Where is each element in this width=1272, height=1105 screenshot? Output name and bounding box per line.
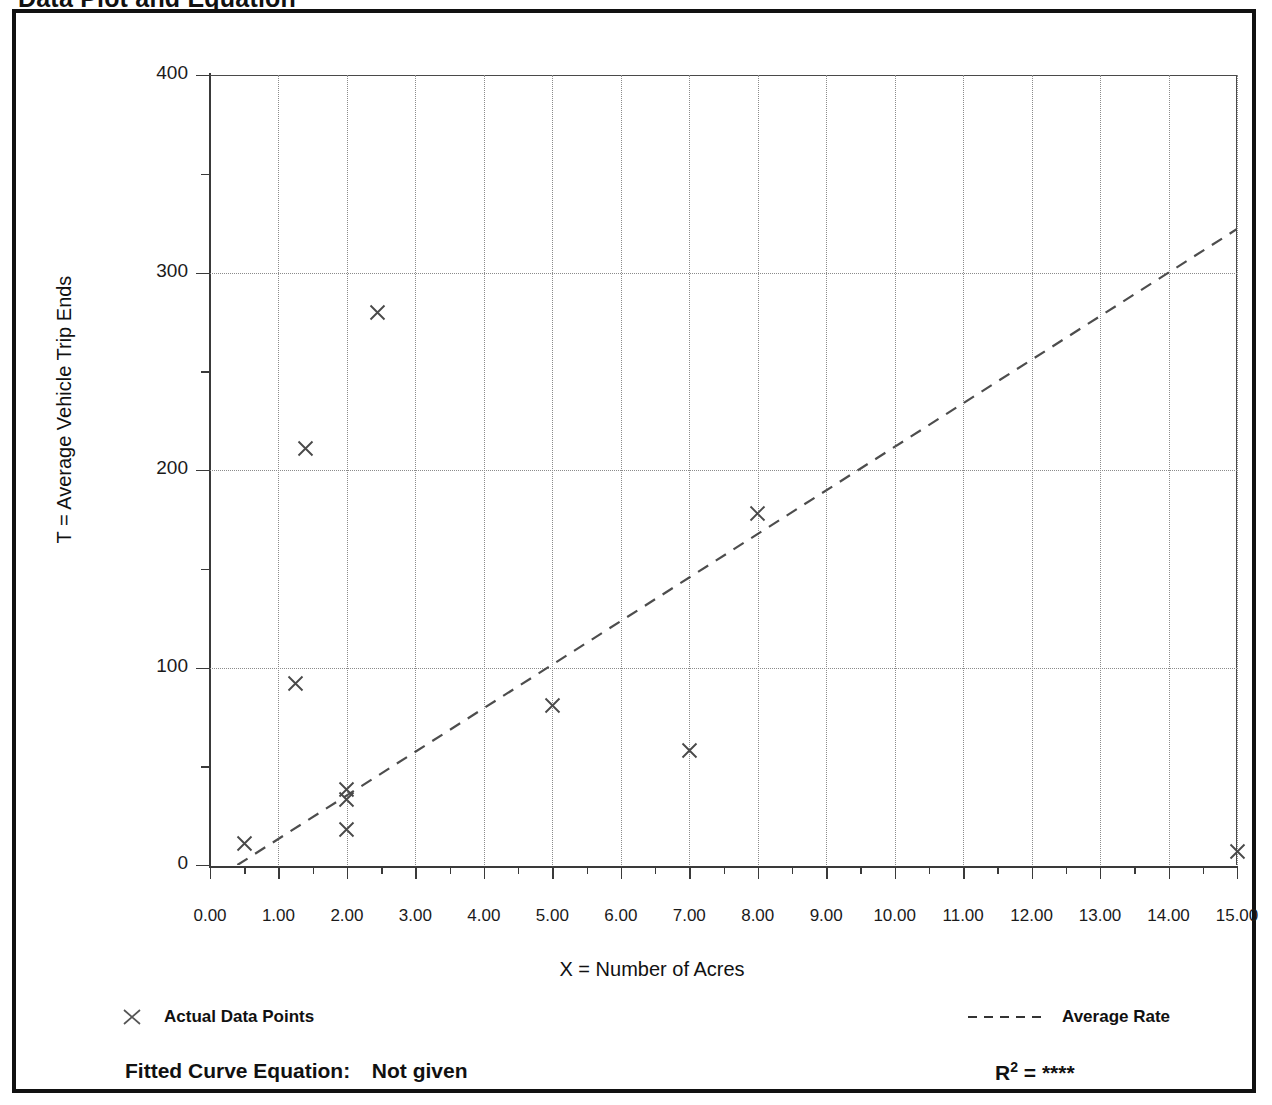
x-tick-major	[278, 866, 279, 879]
data-point-marker	[543, 696, 562, 715]
x-tick-label: 0.00	[175, 906, 245, 926]
y-tick-label: 0	[128, 852, 188, 874]
x-axis-title: X = Number of Acres	[402, 958, 902, 981]
x-tick-minor	[450, 866, 451, 874]
x-tick-minor	[655, 866, 656, 874]
data-point-marker	[368, 303, 387, 322]
r2-exponent: 2	[1010, 1059, 1018, 1075]
r-squared-value: R2 = ****	[995, 1059, 1075, 1085]
y-tick-minor	[201, 766, 210, 767]
x-tick-minor	[587, 866, 588, 874]
y-tick-major	[196, 865, 210, 866]
x-tick-minor	[860, 866, 861, 874]
data-point-marker	[680, 741, 699, 760]
y-tick-minor	[201, 569, 210, 570]
y-tick-major	[196, 470, 210, 471]
data-point-marker	[235, 834, 254, 853]
y-tick-label: 100	[128, 655, 188, 677]
x-tick-major	[689, 866, 690, 879]
legend-rate-label: Average Rate	[1062, 1007, 1170, 1027]
average-rate-svg	[210, 75, 1237, 865]
y-tick-label: 400	[128, 62, 188, 84]
data-point-marker	[748, 504, 767, 523]
r2-prefix: R	[995, 1061, 1010, 1084]
x-tick-major	[895, 866, 896, 879]
y-tick-major	[196, 273, 210, 274]
y-tick-minor	[201, 371, 210, 372]
x-tick-major	[1032, 866, 1033, 879]
x-tick-minor	[313, 866, 314, 874]
legend-actual-data-points: Actual Data Points	[120, 1006, 314, 1027]
x-tick-minor	[929, 866, 930, 874]
x-tick-label: 14.00	[1134, 906, 1204, 926]
x-tick-major	[963, 866, 964, 879]
legend-points-label: Actual Data Points	[164, 1007, 314, 1027]
vertical-gridline	[1237, 75, 1238, 865]
data-point-marker	[1228, 842, 1247, 861]
x-tick-minor	[381, 866, 382, 874]
x-tick-major	[621, 866, 622, 879]
x-tick-minor	[518, 866, 519, 874]
plot-area	[210, 75, 1237, 865]
x-tick-label: 4.00	[449, 906, 519, 926]
x-tick-label: 12.00	[997, 906, 1067, 926]
equation-value: Not given	[372, 1059, 468, 1082]
x-tick-major	[552, 866, 553, 879]
x-tick-minor	[1134, 866, 1135, 874]
chart-frame: 0.001.002.003.004.005.006.007.008.009.00…	[12, 9, 1256, 1093]
data-point-marker	[286, 674, 305, 693]
legend-average-rate: Average Rate	[966, 1006, 1170, 1027]
x-tick-major	[758, 866, 759, 879]
x-tick-label: 7.00	[654, 906, 724, 926]
x-tick-major	[484, 866, 485, 879]
x-tick-label: 6.00	[586, 906, 656, 926]
data-point-marker	[337, 820, 356, 839]
x-tick-label: 2.00	[312, 906, 382, 926]
x-tick-label: 8.00	[723, 906, 793, 926]
x-tick-label: 13.00	[1065, 906, 1135, 926]
fitted-curve-equation: Fitted Curve Equation: Not given	[125, 1059, 468, 1083]
x-tick-major	[1100, 866, 1101, 879]
x-tick-minor	[1203, 866, 1204, 874]
x-tick-label: 3.00	[380, 906, 450, 926]
y-tick-major	[196, 75, 210, 76]
r2-stars: ****	[1042, 1061, 1075, 1084]
x-tick-label: 5.00	[517, 906, 587, 926]
y-tick-major	[196, 668, 210, 669]
equation-label: Fitted Curve Equation:	[125, 1059, 350, 1082]
x-tick-label: 10.00	[860, 906, 930, 926]
x-tick-minor	[1066, 866, 1067, 874]
y-tick-label: 200	[128, 457, 188, 479]
x-tick-label: 11.00	[928, 906, 998, 926]
x-tick-label: 1.00	[243, 906, 313, 926]
dashed-line-icon	[966, 1009, 1044, 1025]
chart-page: Data Plot and Equation 0.001.002.003.004…	[0, 0, 1272, 1105]
x-tick-major	[1237, 866, 1238, 879]
x-tick-minor	[724, 866, 725, 874]
x-marker-icon	[120, 1007, 144, 1027]
x-tick-major	[210, 866, 211, 879]
x-tick-label: 15.00	[1202, 906, 1272, 926]
x-tick-label: 9.00	[791, 906, 861, 926]
x-tick-major	[1169, 866, 1170, 879]
x-tick-major	[826, 866, 827, 879]
x-tick-minor	[792, 866, 793, 874]
x-tick-minor	[244, 866, 245, 874]
x-tick-major	[415, 866, 416, 879]
x-tick-minor	[997, 866, 998, 874]
y-tick-label: 300	[128, 260, 188, 282]
data-point-marker	[296, 439, 315, 458]
r2-equals: =	[1018, 1061, 1042, 1084]
data-point-marker	[337, 790, 356, 809]
y-axis-title: T = Average Vehicle Trip Ends	[53, 140, 76, 680]
y-tick-minor	[201, 174, 210, 175]
x-tick-major	[347, 866, 348, 879]
